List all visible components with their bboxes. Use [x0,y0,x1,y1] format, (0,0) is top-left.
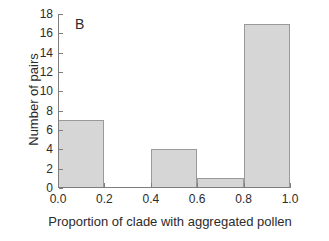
x-tick-label: 1.0 [282,192,299,206]
x-tick-label: 0.8 [235,192,252,206]
y-tick-label: 10 [40,84,53,98]
histogram-bar [151,149,197,188]
x-tick-label: 0.0 [50,192,67,206]
x-tick-mark [151,183,152,188]
y-tick-label: 18 [40,7,53,21]
y-tick-mark [59,130,63,131]
y-tick-mark [59,53,63,54]
y-tick-mark [59,33,63,34]
x-tick-mark [58,183,59,188]
y-tick-mark [59,91,63,92]
x-tick-mark [244,183,245,188]
plot-area: B 024681012141618 0.00.20.40.60.81.0 [58,14,290,188]
y-tick-label: 14 [40,46,53,60]
panel-label: B [75,16,84,32]
y-tick-mark [59,111,63,112]
histogram-figure: Number of pairs Proportion of clade with… [0,0,329,241]
histogram-bar [244,24,290,188]
y-tick-label: 12 [40,65,53,79]
y-tick-mark [59,169,63,170]
histogram-bar [58,120,104,188]
y-tick-mark [59,188,63,189]
y-tick-label: 2 [46,162,53,176]
y-tick-label: 16 [40,26,53,40]
x-tick-label: 0.2 [96,192,113,206]
x-tick-mark [104,183,105,188]
x-tick-mark [290,183,291,188]
y-tick-mark [59,149,63,150]
x-axis-line [58,187,290,188]
y-tick-label: 4 [46,142,53,156]
y-axis-line [58,14,59,188]
y-tick-label: 8 [46,104,53,118]
y-tick-label: 6 [46,123,53,137]
y-axis-title: Number of pairs [26,20,41,180]
y-tick-mark [59,14,63,15]
y-tick-mark [59,72,63,73]
x-axis-title: Proportion of clade with aggregated poll… [34,214,306,229]
x-tick-label: 0.4 [142,192,159,206]
x-tick-mark [197,183,198,188]
x-tick-label: 0.6 [189,192,206,206]
